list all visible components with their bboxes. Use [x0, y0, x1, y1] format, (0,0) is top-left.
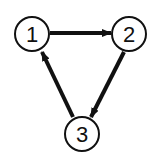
node-1: 1 [15, 17, 49, 51]
node-1-label: 1 [26, 22, 38, 47]
node-3-label: 3 [76, 122, 88, 147]
edge-2-to-3 [91, 52, 124, 117]
directed-cycle-graph: 1 2 3 [0, 0, 155, 165]
node-2: 2 [112, 17, 146, 51]
edge-3-to-1 [42, 52, 73, 117]
node-3: 3 [65, 117, 99, 151]
node-2-label: 2 [123, 22, 135, 47]
